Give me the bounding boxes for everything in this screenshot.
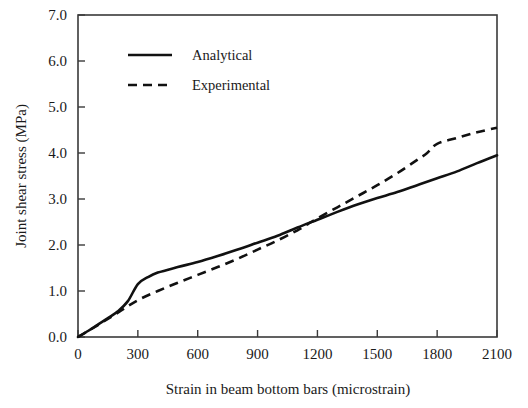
x-axis-title: Strain in beam bottom bars (microstrain) <box>166 381 411 398</box>
x-axis-ticks <box>78 330 497 337</box>
y-tick-label: 6.0 <box>48 53 67 69</box>
x-tick-label: 900 <box>246 346 269 362</box>
y-tick-label: 1.0 <box>48 283 67 299</box>
x-tick-label: 0 <box>74 346 82 362</box>
y-axis-title: Joint shear stress (MPa) <box>13 104 30 248</box>
x-tick-label: 2100 <box>482 346 512 362</box>
x-tick-label: 1200 <box>302 346 332 362</box>
y-tick-label: 3.0 <box>48 191 67 207</box>
chart-legend: Analytical Experimental <box>128 47 270 93</box>
y-tick-label: 7.0 <box>48 7 67 23</box>
y-tick-label: 4.0 <box>48 145 67 161</box>
x-tick-label: 1500 <box>362 346 392 362</box>
series-line-analytical <box>78 155 497 337</box>
x-axis-tick-labels: 03006009001200150018002100 <box>74 346 512 362</box>
chart-figure: 03006009001200150018002100 0.01.02.03.04… <box>0 0 528 408</box>
y-tick-label: 5.0 <box>48 99 67 115</box>
y-tick-label: 2.0 <box>48 237 67 253</box>
line-chart: 03006009001200150018002100 0.01.02.03.04… <box>0 0 528 408</box>
y-axis-tick-labels: 0.01.02.03.04.05.06.07.0 <box>48 7 67 345</box>
legend-label-analytical: Analytical <box>192 47 252 63</box>
legend-label-experimental: Experimental <box>192 77 270 93</box>
plot-frame <box>78 15 497 337</box>
y-axis-ticks <box>78 15 85 337</box>
x-tick-label: 600 <box>186 346 209 362</box>
x-tick-label: 1800 <box>422 346 452 362</box>
x-tick-label: 300 <box>127 346 150 362</box>
y-tick-label: 0.0 <box>48 329 67 345</box>
